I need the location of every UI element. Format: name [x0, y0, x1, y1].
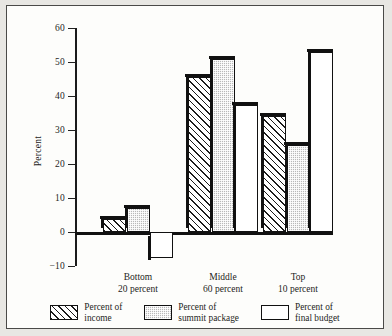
bar-shadow-cap — [209, 56, 235, 59]
legend-label: Percent ofsummit package — [178, 302, 239, 323]
y-tick-label: 40 — [55, 91, 65, 101]
bar-shadow-cap — [307, 49, 333, 52]
bar — [212, 59, 235, 232]
y-tick-mark — [68, 96, 75, 97]
category-label-line: Middle — [203, 272, 243, 284]
y-tick-mark — [68, 198, 75, 199]
category-label-line: Bottom — [118, 272, 158, 284]
category-label: Top10 percent — [278, 272, 318, 295]
bar — [263, 116, 286, 232]
legend-label-line: Percent of — [295, 302, 340, 313]
legend-label-line: final budget — [295, 313, 340, 324]
plot-area: Percent 6050403020100−10 Bottom20 percen… — [75, 28, 333, 266]
y-tick-mark — [68, 266, 75, 267]
bar-shadow-cap — [100, 216, 126, 219]
legend-item[interactable]: Percent ofincome — [50, 302, 122, 323]
category-label: Bottom20 percent — [118, 272, 158, 295]
y-tick-label: 60 — [55, 23, 65, 33]
category-label: Middle60 percent — [203, 272, 243, 295]
legend-label-line: income — [84, 313, 122, 324]
legend-label-line: Percent of — [178, 302, 239, 313]
bar — [310, 52, 333, 232]
category-label-line: 20 percent — [118, 284, 158, 296]
y-tick-label: 50 — [55, 57, 65, 67]
bar-shadow-cap — [260, 113, 286, 116]
y-tick-label: 10 — [55, 193, 65, 203]
legend-item[interactable]: Percent offinal budget — [261, 302, 340, 323]
bar-shadow-cap — [185, 74, 211, 77]
category-label-line: Top — [278, 272, 318, 284]
zero-baseline — [75, 232, 333, 235]
bar-shadow-cap — [232, 102, 258, 105]
legend-label: Percent ofincome — [84, 302, 122, 323]
y-tick-label: −10 — [50, 261, 65, 271]
category-label-line: 10 percent — [278, 284, 318, 296]
y-tick-mark — [68, 62, 75, 63]
bar — [127, 208, 150, 232]
y-tick-label: 30 — [55, 125, 65, 135]
bar — [188, 77, 211, 232]
y-tick-mark — [68, 164, 75, 165]
legend-label-line: summit package — [178, 313, 239, 324]
hatch-swatch — [50, 305, 78, 320]
y-tick-label: 20 — [55, 159, 65, 169]
bar-shadow-cap — [124, 205, 150, 208]
y-tick-mark — [68, 232, 75, 233]
legend-label-line: Percent of — [84, 302, 122, 313]
y-tick-mark — [68, 130, 75, 131]
white-swatch — [261, 305, 289, 320]
dots-swatch — [144, 305, 172, 320]
bar — [150, 232, 173, 258]
chart-figure: Percent 6050403020100−10 Bottom20 percen… — [6, 5, 384, 329]
bar — [235, 105, 258, 233]
category-label-line: 60 percent — [203, 284, 243, 296]
legend-item[interactable]: Percent ofsummit package — [144, 302, 239, 323]
y-axis-title: Percent — [33, 136, 43, 167]
y-axis-line — [75, 28, 77, 266]
bar — [103, 219, 126, 232]
legend-label: Percent offinal budget — [295, 302, 340, 323]
chart-legend: Percent ofincomePercent ofsummit package… — [7, 302, 383, 323]
y-tick-label: 0 — [60, 227, 65, 237]
bar-shadow-cap — [284, 142, 310, 145]
bar — [287, 145, 310, 232]
y-tick-mark — [68, 28, 75, 29]
